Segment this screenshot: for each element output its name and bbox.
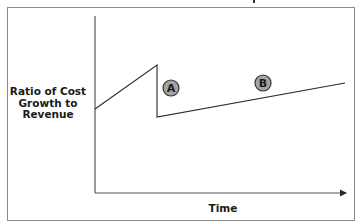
marker-a-label: A — [167, 82, 176, 95]
marker-b-label: B — [259, 77, 267, 90]
marker-b: B — [255, 75, 271, 91]
plot-area: A B — [0, 0, 361, 224]
cost-growth-line — [95, 65, 345, 117]
marker-a: A — [163, 80, 179, 96]
